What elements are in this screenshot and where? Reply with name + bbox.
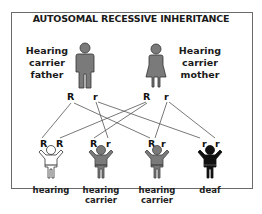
child4-label: deaf: [180, 185, 240, 195]
child2-label: hearing carrier: [71, 185, 131, 205]
inheritance-lines: [0, 0, 262, 214]
child2-label-line: hearing: [71, 185, 131, 195]
child-hearing-figure-icon: [37, 145, 65, 179]
child3-label-line: hearing: [127, 185, 187, 195]
child-carrier-figure-icon: [143, 145, 171, 179]
child-carrier-figure-icon: [87, 145, 115, 179]
child4-label-line: deaf: [180, 185, 240, 195]
child3-label: hearing carrier: [127, 185, 187, 205]
child2-label-line: carrier: [71, 195, 131, 205]
child-deaf-figure-icon: [196, 145, 224, 179]
child3-label-line: carrier: [127, 195, 187, 205]
